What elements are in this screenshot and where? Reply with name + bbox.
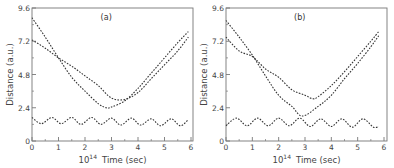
- chart-panel-a: 012345602.44.87.29.6Distance (a.u.)1014T…: [0, 0, 197, 168]
- plot-frame: [32, 8, 193, 141]
- y-tick-label: 0: [25, 137, 30, 146]
- y-tick-label: 9.6: [212, 4, 224, 13]
- x-tick-label: 0: [30, 143, 35, 152]
- y-axis-label: Distance (a.u.): [5, 43, 15, 106]
- panel-label: (a): [101, 13, 112, 22]
- x-tick-label: 0: [224, 143, 229, 152]
- x-tick-label: 4: [329, 143, 334, 152]
- x-axis-label: 1014Time (sec): [79, 153, 147, 165]
- chart-svg: 012345602.44.87.29.6Distance (a.u.)1014T…: [0, 0, 197, 168]
- y-tick-label: 7.2: [212, 37, 224, 46]
- series-oscillating: [226, 118, 379, 127]
- x-tick-label: 6: [382, 143, 387, 152]
- y-tick-label: 0: [219, 137, 224, 146]
- x-tick-label: 3: [303, 143, 308, 152]
- y-tick-label: 4.8: [212, 71, 224, 80]
- x-tick-label: 6: [189, 143, 194, 152]
- x-tick-label: 2: [276, 143, 281, 152]
- panel-label: (b): [294, 13, 305, 22]
- plot-frame: [226, 8, 387, 141]
- chart-svg: 012345602.44.87.29.6Distance (a.u.)1014T…: [194, 0, 391, 168]
- x-tick-label: 1: [56, 143, 61, 152]
- x-tick-label: 5: [355, 143, 360, 152]
- series-curve-2: [32, 37, 188, 100]
- x-tick-label: 3: [109, 143, 114, 152]
- y-tick-label: 9.6: [18, 4, 30, 13]
- x-axis-label: 1014Time (sec): [273, 153, 341, 165]
- x-tick-label: 1: [250, 143, 255, 152]
- y-tick-label: 2.4: [212, 104, 224, 113]
- x-tick-label: 4: [136, 143, 141, 152]
- series-curve-1: [226, 20, 379, 116]
- x-tick-label: 2: [83, 143, 88, 152]
- x-tick-label: 5: [162, 143, 167, 152]
- series-oscillating: [32, 117, 188, 125]
- y-tick-label: 7.2: [18, 37, 30, 46]
- chart-panel-b: 012345602.44.87.29.6Distance (a.u.)1014T…: [194, 0, 391, 168]
- y-tick-label: 4.8: [18, 71, 30, 80]
- y-tick-label: 2.4: [18, 104, 30, 113]
- series-curve-1: [32, 18, 188, 108]
- y-axis-label: Distance (a.u.): [199, 43, 209, 106]
